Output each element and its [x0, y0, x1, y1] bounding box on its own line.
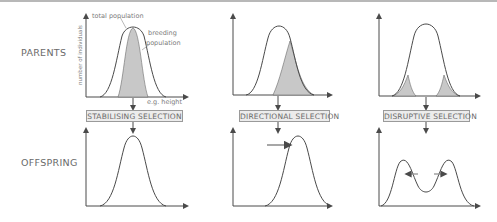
directional-selection-box: DIRECTIONAL SELECTION [239, 110, 330, 122]
y-axis-label: number of individuals [77, 25, 83, 85]
offspring-disruptive-graph [379, 130, 478, 206]
stabilising-selection-box: STABILISING SELECTION [86, 110, 183, 122]
offspring-directional-graph [233, 130, 331, 206]
disruptive-selection-box: DISRUPTIVE SELECTION [383, 110, 470, 122]
x-axis-label: e.g. height [147, 98, 182, 106]
total-population-label: total population [92, 12, 144, 20]
offspring-stabilising-graph [86, 130, 186, 206]
breeding-label-line1: breeding [148, 29, 177, 37]
parents-disruptive-graph [379, 16, 478, 96]
parents-directional-graph [233, 16, 330, 95]
breeding-label-line2: population [146, 39, 181, 47]
